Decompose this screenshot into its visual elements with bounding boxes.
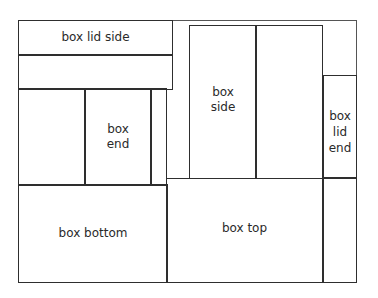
box-lid-end-label-line2: lid xyxy=(323,125,357,140)
box-end-piece-right xyxy=(150,88,167,186)
box-end-label-line2: end xyxy=(84,137,152,152)
box-bottom-label: box bottom xyxy=(18,226,168,241)
box-lid-end-label-line1: box xyxy=(323,109,357,124)
box-side-label-line1: box xyxy=(189,85,257,100)
box-side-piece-2 xyxy=(255,25,323,179)
box-top-label: box top xyxy=(166,221,323,236)
box-end-piece-left xyxy=(18,88,86,186)
box-side-label-line2: side xyxy=(189,100,257,115)
box-lid-end-label-line3: end xyxy=(323,141,357,156)
box-end-label-line1: box xyxy=(84,122,152,137)
box-lid-side-label: box lid side xyxy=(18,30,173,45)
box-lid-side-piece-2 xyxy=(18,54,173,90)
box-lid-end-piece-2 xyxy=(323,177,357,283)
